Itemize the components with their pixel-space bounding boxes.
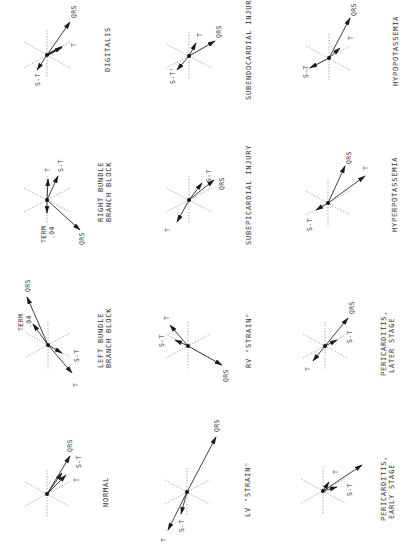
t-label: T: [332, 470, 340, 474]
st-vector: [47, 473, 62, 494]
qrs-label: QRS: [350, 3, 358, 16]
origin-dot: [326, 201, 330, 205]
t-label: T: [196, 33, 204, 37]
qrs-label: QRS: [348, 301, 356, 314]
st-label: S-T: [346, 330, 354, 343]
origin-dot: [45, 53, 49, 57]
panel-subepicardial-injury: S-T QRS T SUBEPICARDIAL INJURY: [164, 145, 253, 245]
t-vector: [313, 346, 325, 361]
origin-dot: [187, 198, 191, 202]
st-label: S-T: [302, 65, 310, 78]
origin-dot: [45, 492, 49, 496]
origin-dot: [323, 344, 327, 348]
origin-dot: [187, 54, 191, 58]
st-label: S-T: [34, 73, 42, 86]
panel-title: NORMAL: [102, 477, 110, 507]
panel-title-line2: EARLY STAGE: [388, 464, 396, 519]
t-label: T: [304, 367, 312, 371]
qrs-vector: [328, 166, 345, 203]
st-vector: [177, 56, 189, 70]
panel-title-line1: RIGHT BUNDLE: [97, 162, 105, 222]
t-vector: [328, 176, 365, 203]
qrs-vector: [188, 346, 222, 365]
t-label: T: [164, 228, 172, 232]
qrs-label: QRS: [66, 439, 74, 452]
panel-title: SUBEPICARDIAL INJURY: [245, 145, 253, 245]
qrs-label: QRS: [24, 279, 32, 292]
st-vector: [175, 340, 188, 346]
t-label: T: [160, 538, 168, 542]
qrs-vector: [325, 318, 348, 346]
panel-hyperpotassemia: QRS T S-T HYPERPOTASSEMIA: [306, 151, 399, 232]
t-label: T: [72, 383, 80, 387]
t-label: T: [73, 478, 81, 482]
qrs-label: QRS: [215, 25, 223, 38]
panel-title: HYPOPOTASSEMIA: [392, 16, 400, 86]
t-vector: [170, 325, 188, 346]
st-label: S-T: [73, 349, 81, 362]
st-vector: [325, 340, 337, 346]
t-label: T: [44, 168, 52, 172]
panel-title-line1: PERICARDITIS,: [380, 311, 388, 376]
st-label: S-T': [169, 67, 177, 84]
panel-title: DIGITALIS: [104, 27, 112, 72]
qrs-label: QRS: [78, 232, 86, 245]
qrs-vector: [47, 22, 70, 55]
vector-diagram-figure: QRS T S-T DIGITALIS QRS T S-T' SUBENDOCA…: [0, 0, 405, 555]
t-label: T: [163, 316, 171, 320]
qrs-label: QRS: [222, 369, 230, 382]
panel-title: SUBENDOCARDIAL INJURY: [245, 0, 253, 100]
st-label: S-T: [158, 334, 166, 347]
panel-lv-strain: QRS S-T T LV "STRAIN": [160, 419, 252, 542]
t-vector: [329, 48, 340, 58]
panel-digitalis: QRS T S-T DIGITALIS: [24, 5, 112, 86]
panel-title-line1: LEFT BUNDLE: [97, 313, 105, 368]
origin-dot: [321, 489, 325, 493]
st-long-vector: [323, 465, 362, 491]
panel-hypopotassemia: QRS T S-T HYPOPOTASSEMIA: [302, 3, 400, 86]
panel-title: RV "STRAIN": [245, 313, 253, 368]
term-value-label: .04: [25, 315, 33, 328]
panel-pericarditis-early-stage: T S-T PERICARDITIS, EARLY STAGE: [301, 456, 396, 521]
panel-pericarditis-later-stage: QRS S-T T PERICARDITIS, LATER STAGE: [303, 301, 396, 376]
origin-dot: [186, 344, 190, 348]
t-label: T: [70, 43, 78, 47]
origin-dot: [327, 56, 331, 60]
panel-title-line2: BRANCH BLOCK: [105, 308, 113, 368]
panel-title: HYPERPOTASSEMIA: [391, 157, 399, 232]
st-label: S-T: [306, 218, 314, 231]
panel-title-line2: LATER STAGE: [388, 318, 396, 373]
panel-title-line2: BRANCH BLOCK: [105, 162, 113, 222]
st-vector: [47, 176, 58, 200]
st-label: S-T: [205, 169, 213, 182]
qrs-vector: [47, 456, 70, 494]
term-value-label: .04: [48, 226, 56, 239]
panel-title-line1: PERICARDITIS,: [380, 456, 388, 521]
t-label: T: [362, 166, 370, 170]
qrs-label: QRS: [345, 151, 353, 164]
st-vector: [316, 203, 328, 210]
qrs-label: QRS: [70, 5, 78, 18]
st-label: S-T: [346, 483, 354, 496]
panel-right-bundle-branch-block: T S-T QRS TERM .04 RIGHT BUNDLE BRANCH B…: [24, 159, 113, 245]
term-label: TERM: [17, 314, 25, 331]
origin-dot: [46, 343, 50, 347]
st-label: S-T: [75, 455, 83, 468]
origin-dot: [185, 490, 189, 494]
origin-dot: [45, 198, 49, 202]
term-label: TERM: [40, 226, 48, 243]
panel-left-bundle-branch-block: QRS TERM .04 S-T T LEFT BUNDLE BRANCH BL…: [17, 279, 113, 387]
t-label: T: [347, 36, 355, 40]
qrs-vector: [187, 437, 216, 492]
st-label: S-T: [178, 519, 186, 532]
st-label: S-T: [57, 159, 65, 172]
panel-title: LV "STRAIN": [244, 462, 252, 517]
t-vector: [48, 345, 72, 373]
qrs-label: QRS: [213, 419, 221, 432]
panel-rv-strain: T S-T QRS RV "STRAIN": [158, 313, 253, 382]
st-vector: [310, 58, 329, 68]
qrs-label: QRS: [218, 177, 226, 190]
panel-normal: QRS S-T T NORMAL: [25, 439, 110, 518]
st-vector: [37, 55, 47, 70]
st-vector: [48, 345, 62, 353]
